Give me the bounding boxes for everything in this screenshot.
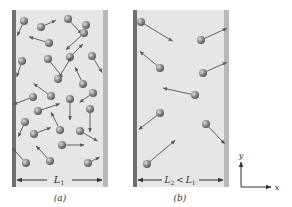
molecule-ball xyxy=(84,159,92,167)
molecule-ball xyxy=(45,39,53,47)
width-label-b: L2<L1 xyxy=(163,175,195,186)
x-axis-label: x xyxy=(275,183,280,192)
coordinate-axes: y x xyxy=(238,151,280,192)
caption-a: (a) xyxy=(54,193,67,203)
molecule-ball xyxy=(79,80,87,88)
molecule-ball xyxy=(37,23,45,31)
molecule-ball xyxy=(58,141,66,149)
panel-a: L1 (a) xyxy=(12,10,108,203)
panel-b: L2<L1 (b) xyxy=(133,10,229,203)
molecule-ball xyxy=(30,130,38,138)
right-wall-a xyxy=(103,10,108,187)
molecule-ball xyxy=(137,18,145,26)
molecule-ball xyxy=(56,126,64,134)
molecule-ball xyxy=(191,91,199,99)
molecule-a-5 xyxy=(82,21,90,29)
molecule-ball xyxy=(86,105,94,113)
molecule-ball xyxy=(22,159,30,167)
left-wall-b xyxy=(133,10,137,187)
molecule-ball xyxy=(66,95,74,103)
molecule-ball xyxy=(156,109,164,117)
molecule-ball xyxy=(18,57,26,65)
molecule-ball xyxy=(202,120,210,128)
molecule-ball xyxy=(80,29,88,37)
gas-compression-diagram: L1 (a) L2<L1 (b) y x xyxy=(0,0,292,207)
right-wall-b xyxy=(224,10,229,187)
molecule-ball xyxy=(29,93,37,101)
molecule-ball xyxy=(54,75,62,83)
molecule-ball xyxy=(76,127,84,135)
molecule-ball xyxy=(89,89,97,97)
molecule-ball xyxy=(21,118,29,126)
molecule-ball xyxy=(156,64,164,72)
molecule-ball xyxy=(82,21,90,29)
molecule-ball xyxy=(34,107,42,115)
molecule-ball xyxy=(199,69,207,77)
molecule-ball xyxy=(44,55,52,63)
left-wall-a xyxy=(12,10,16,187)
caption-b: (b) xyxy=(174,193,187,203)
molecule-ball xyxy=(47,92,55,100)
molecule-ball xyxy=(20,17,28,25)
molecule-ball xyxy=(197,36,205,44)
molecule-ball xyxy=(88,52,96,60)
molecule-ball xyxy=(143,160,151,168)
y-axis-label: y xyxy=(238,151,244,160)
molecule-ball xyxy=(46,157,54,165)
molecule-ball xyxy=(64,15,72,23)
